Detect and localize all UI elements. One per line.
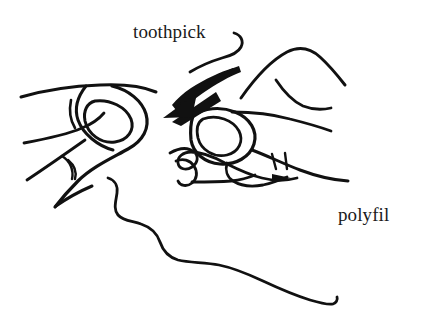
line-drawing-canvas [0, 0, 421, 325]
label-toothpick: toothpick [133, 22, 206, 41]
illustration-figure: toothpick polyfil [0, 0, 421, 325]
label-polyfil: polyfil [338, 205, 389, 224]
